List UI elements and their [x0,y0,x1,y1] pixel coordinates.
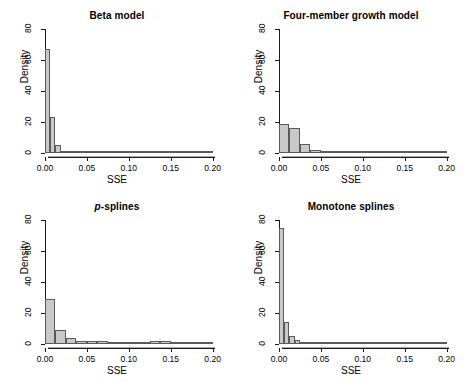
x-axis-tick [447,348,448,352]
histogram-bar [373,151,383,153]
histogram-bar [192,342,202,344]
x-axis-tick [87,348,88,352]
histogram-bar [87,341,97,344]
histogram-bar [441,342,446,344]
histogram-bars [279,29,455,153]
y-axis-tick [275,60,279,61]
x-axis-tick [213,348,214,352]
histogram-bar [415,151,425,153]
x-axis-tick [321,157,322,161]
x-axis-tick-label: 0.05 [304,163,338,173]
histogram-bar [384,151,394,153]
y-axis-tick [275,344,279,345]
histogram-bar [55,330,65,344]
histogram-bar [202,342,212,344]
x-axis-label: SSE [0,365,234,376]
y-axis-tick-label: 20 [258,301,267,323]
histogram-bar [279,124,289,153]
x-axis-line [282,348,449,349]
plot-baseline [282,156,449,157]
y-axis-tick [41,122,45,123]
x-axis-line [282,157,449,158]
x-axis-tick-label: 0.00 [28,354,62,364]
histogram-bar [426,151,436,153]
y-axis-tick-label: 20 [24,301,33,323]
x-axis-tick-label: 0.00 [262,163,296,173]
histogram-bar [108,342,118,344]
histogram-bar [160,341,170,344]
panel-title: Four-member growth model [234,10,468,22]
panel-title: Monotone splines [234,201,468,213]
x-axis-tick-label: 0.15 [388,163,422,173]
panel-p-splines: p-splines 020406080 0.000.050.100.150.20… [0,191,234,382]
histogram-figure-grid: Beta model 020406080 0.000.050.100.150.2… [0,0,468,382]
x-axis-tick [279,157,280,161]
y-axis-tick [41,282,45,283]
x-axis-tick-label: 0.15 [154,163,188,173]
histogram-bar [139,342,149,344]
x-axis-tick [171,157,172,161]
histogram-bar [363,151,373,153]
y-axis-tick-label: 0 [24,332,33,354]
x-axis-tick [87,157,88,161]
histogram-bar [181,342,191,344]
y-axis-tick [41,313,45,314]
histogram-bars [45,29,221,153]
histogram-bar [207,151,212,153]
histogram-bar [342,151,352,153]
x-axis-tick [279,348,280,352]
histogram-bars [45,220,221,344]
x-axis-tick-label: 0.15 [388,354,422,364]
x-axis-tick [129,157,130,161]
x-axis-tick-label: 0.05 [70,354,104,364]
x-axis-tick-label: 0.10 [112,163,146,173]
x-axis-line [48,157,215,158]
y-axis-label: Density [19,27,30,107]
y-axis-tick [41,60,45,61]
plot-baseline [282,347,449,348]
y-axis-tick [41,153,45,154]
x-axis-tick [171,348,172,352]
x-axis-tick [129,348,130,352]
x-axis-tick [405,348,406,352]
panel-title: Beta model [0,10,234,22]
y-axis-tick [275,153,279,154]
x-axis-tick-label: 0.20 [430,354,464,364]
y-axis-tick [275,91,279,92]
histogram-bar [289,128,299,153]
y-axis-tick [275,29,279,30]
x-axis-tick [363,348,364,352]
histogram-bar [321,151,331,153]
panel-four-member-growth-model: Four-member growth model 020406080 0.000… [234,0,468,191]
y-axis-tick-label: 0 [24,141,33,163]
x-axis-tick-label: 0.10 [346,163,380,173]
x-axis-tick [213,157,214,161]
x-axis-tick-label: 0.05 [70,163,104,173]
x-axis-label: SSE [234,174,468,185]
histogram-bar [436,151,446,153]
x-axis-tick-label: 0.10 [112,354,146,364]
y-axis-tick-label: 0 [258,332,267,354]
histogram-bar [76,341,86,344]
x-axis-tick [447,157,448,161]
x-axis-tick-label: 0.20 [196,354,230,364]
histogram-bar [331,151,341,153]
histogram-bar [129,342,139,344]
x-axis-tick [45,157,46,161]
histogram-bar [97,341,107,344]
x-axis-tick [45,348,46,352]
y-axis-tick [41,91,45,92]
panel-title-text: Four-member growth model [283,10,418,21]
y-axis-tick [41,220,45,221]
panel-monotone-splines: Monotone splines 020406080 0.000.050.100… [234,191,468,382]
y-axis-tick [275,282,279,283]
panel-title-text: Beta model [90,10,145,21]
panel-beta-model: Beta model 020406080 0.000.050.100.150.2… [0,0,234,191]
x-axis-label: SSE [0,174,234,185]
y-axis-tick [275,313,279,314]
plot-baseline [48,347,215,348]
histogram-bar [352,151,362,153]
y-axis-tick [275,220,279,221]
x-axis-tick-label: 0.15 [154,354,188,364]
x-axis-tick-label: 0.00 [28,163,62,173]
